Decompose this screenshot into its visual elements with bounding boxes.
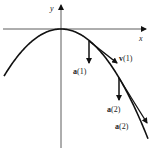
label-v1: v(1) bbox=[119, 54, 133, 63]
y-axis-label: y bbox=[49, 4, 54, 13]
label-a2: a(2) bbox=[107, 105, 121, 114]
parabola-diagram: y x a(1) v(1) a(2) a(2) bbox=[0, 0, 153, 151]
x-axis-label: x bbox=[138, 34, 143, 43]
label-a2-tangent: a(2) bbox=[115, 122, 129, 131]
tangent-vector-2 bbox=[119, 78, 147, 123]
velocity-vector-v1 bbox=[89, 41, 117, 63]
label-a1: a(1) bbox=[73, 67, 87, 76]
